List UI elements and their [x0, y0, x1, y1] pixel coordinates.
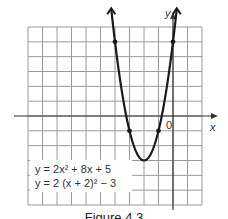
data-point — [127, 128, 132, 133]
equation-standard-form: y = 2x² + 8x + 5 — [35, 163, 111, 175]
x-axis-label: x — [209, 121, 216, 133]
data-point — [171, 39, 176, 44]
figure-caption: Figure 4.3 — [0, 210, 228, 219]
data-point — [113, 39, 118, 44]
data-point — [156, 128, 161, 133]
x-axis-arrow-icon — [211, 113, 218, 119]
parabola-chart: y = 2x² + 8x + 5 y = 2 (x + 2)² − 3 y x … — [0, 0, 228, 219]
origin-label: 0 — [166, 119, 172, 131]
equation-vertex-form: y = 2 (x + 2)² − 3 — [35, 177, 116, 189]
